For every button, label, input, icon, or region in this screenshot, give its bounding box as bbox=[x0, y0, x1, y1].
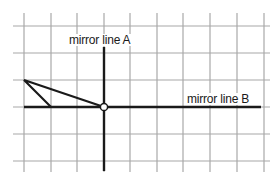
intersection-point bbox=[100, 103, 107, 110]
grid-diagram bbox=[0, 0, 276, 178]
mirror-line-a-label: mirror line A bbox=[68, 34, 131, 46]
triangle-shape bbox=[24, 80, 104, 107]
mirror-line-b-label: mirror line B bbox=[186, 93, 250, 105]
